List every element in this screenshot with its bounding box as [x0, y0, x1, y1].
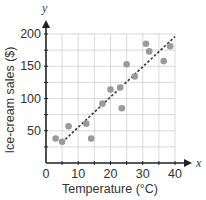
data-point — [107, 86, 114, 93]
svg-text:10: 10 — [71, 167, 85, 181]
data-point — [131, 73, 138, 80]
data-point — [99, 100, 106, 107]
data-point — [117, 84, 124, 91]
data-point — [88, 135, 95, 142]
data-point — [146, 48, 153, 55]
data-point — [123, 61, 130, 68]
svg-text:200: 200 — [20, 27, 41, 41]
data-point — [65, 123, 72, 130]
data-point — [160, 58, 167, 65]
data-point — [83, 120, 90, 127]
svg-text:0: 0 — [43, 167, 50, 181]
svg-text:100: 100 — [20, 92, 41, 106]
data-point — [59, 138, 66, 145]
data-point — [118, 105, 125, 112]
x-axis-label: Temperature (°C) — [62, 182, 158, 196]
svg-text:40: 40 — [168, 167, 182, 181]
svg-text:30: 30 — [136, 167, 150, 181]
data-point — [143, 40, 150, 47]
svg-text:150: 150 — [20, 59, 41, 73]
x-axis-variable: x — [195, 156, 202, 170]
data-point — [52, 135, 59, 142]
svg-text:20: 20 — [104, 167, 118, 181]
grid-lines — [46, 34, 175, 163]
data-point — [167, 43, 174, 50]
scatter-chart: 01020304050100150200 x y Temperature (°C… — [0, 0, 206, 200]
axes — [42, 20, 192, 167]
y-axis-label: Ice-cream sales ($) — [3, 47, 17, 154]
svg-text:50: 50 — [27, 124, 41, 138]
y-axis-variable: y — [41, 1, 48, 15]
